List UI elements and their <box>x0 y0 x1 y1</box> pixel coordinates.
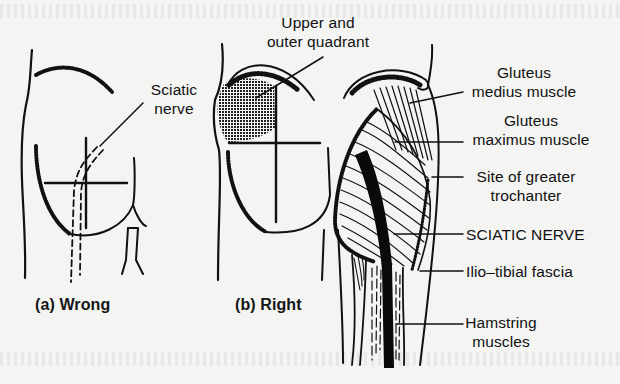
label-line: nerve <box>136 99 212 118</box>
shaded-upper-outer-quadrant <box>218 78 275 142</box>
label-line: maximus muscle <box>465 130 597 149</box>
label-line: medius muscle <box>465 82 583 101</box>
caption-panel-b: (b) Right <box>235 295 302 314</box>
leader-line-quadrant <box>256 57 323 98</box>
label-line: Upper and <box>258 13 378 32</box>
label-hamstring-muscles: Hamstring muscles <box>462 313 540 351</box>
label-line: Gluteus <box>465 63 583 82</box>
panel-a-quadrant-cross <box>45 138 127 228</box>
label-iliotibial-fascia: Ilio–tibial fascia <box>466 262 573 281</box>
label-sciatic-nerve-a: Sciatic nerve <box>136 80 212 118</box>
label-line: trochanter <box>465 186 587 205</box>
caption-panel-a: (a) Wrong <box>35 295 110 314</box>
label-gluteus-maximus: Gluteus maximus muscle <box>465 111 597 149</box>
sciatic-nerve-band <box>355 150 394 368</box>
label-line: muscles <box>462 332 540 351</box>
panel-b-buttock-outline <box>214 44 330 280</box>
label-greater-trochanter: Site of greater trochanter <box>465 167 587 205</box>
label-line: Hamstring <box>462 313 540 332</box>
label-upper-outer-quadrant: Upper and outer quadrant <box>258 13 378 51</box>
label-line: Sciatic <box>136 80 212 99</box>
label-gluteus-medius: Gluteus medius muscle <box>465 63 583 101</box>
label-line: Gluteus <box>465 111 597 130</box>
label-line: outer quadrant <box>258 32 378 51</box>
label-sciatic-nerve-anatomy: SCIATIC NERVE <box>466 225 585 244</box>
intramuscular-injection-site-diagram: Sciatic nerve Upper and outer quadrant G… <box>0 0 620 384</box>
label-line: Site of greater <box>465 167 587 186</box>
